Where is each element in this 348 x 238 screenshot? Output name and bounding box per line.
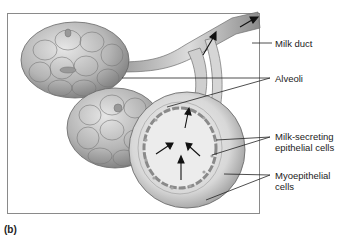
label-myoepithelial-line2: cells <box>275 181 330 192</box>
label-milk-duct: Milk duct <box>275 38 312 49</box>
label-myoepithelial-line1: Myoepithelial <box>275 170 330 181</box>
label-milk-secreting-cells: Milk-secreting epithelial cells <box>275 131 334 153</box>
label-milk-secreting-line2: epithelial cells <box>275 142 334 153</box>
mammary-gland-illustration <box>0 0 348 238</box>
label-milk-secreting-line1: Milk-secreting <box>275 131 334 142</box>
panel-label: (b) <box>4 224 17 235</box>
upper-alveolar-cluster <box>21 22 129 98</box>
label-alveoli: Alveoli <box>275 73 303 84</box>
label-myoepithelial-cells: Myoepithelial cells <box>275 170 330 192</box>
